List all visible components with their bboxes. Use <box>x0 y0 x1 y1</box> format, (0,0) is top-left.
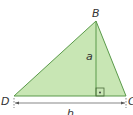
arrow-left-icon <box>15 102 19 105</box>
vertex-label-d: D <box>1 95 9 108</box>
vertex-label-c: C <box>128 95 133 108</box>
right-angle-dot <box>99 92 101 94</box>
triangle-diagram: B D C a h <box>0 0 133 115</box>
base-label: h <box>67 107 74 115</box>
altitude-label: a <box>86 50 93 63</box>
vertex-label-b: B <box>92 7 100 20</box>
triangle-dbc <box>14 21 126 96</box>
arrow-right-icon <box>121 102 125 105</box>
